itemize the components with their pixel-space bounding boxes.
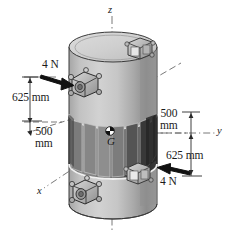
- figure-canvas: z y x 4 N 4 N 625 mm 500 mm 500 mm 625 m…: [0, 0, 232, 243]
- dim-right-625-arrow-top: [189, 134, 194, 139]
- dimension-label-left-625: 625 mm: [12, 92, 49, 104]
- band-strip-dark-right: [146, 114, 157, 167]
- dimension-label-left-500: 500 mm: [35, 126, 53, 149]
- force-label-top: 4 N: [42, 59, 59, 71]
- dim-left-625-arrow-top: [28, 78, 33, 83]
- center-of-gravity-marker: [106, 127, 115, 136]
- axis-label-x: x: [37, 186, 42, 197]
- force-label-bottom: 4 N: [160, 176, 177, 188]
- dim-left-500-arrow: [27, 130, 32, 136]
- band-strip-dark-left: [69, 114, 74, 167]
- force-arrow-bottom: [157, 164, 191, 176]
- dimension-label-left-500-line2: mm: [35, 138, 53, 150]
- dim-right-500-arrow: [189, 113, 194, 118]
- dimension-label-right-625: 625 mm: [166, 150, 203, 162]
- dimension-label-right-500-line1: 500: [160, 108, 178, 120]
- axis-label-z: z: [108, 5, 112, 16]
- dimension-label-left-500-line1: 500: [35, 126, 53, 138]
- band-panel: [84, 123, 96, 175]
- dimension-label-right-500-line2: mm: [160, 120, 178, 132]
- dimension-label-right-500: 500 mm: [160, 108, 178, 131]
- axis-label-y: y: [217, 126, 222, 137]
- diagram-drawing: [0, 0, 232, 243]
- center-of-gravity-label: G: [107, 136, 115, 147]
